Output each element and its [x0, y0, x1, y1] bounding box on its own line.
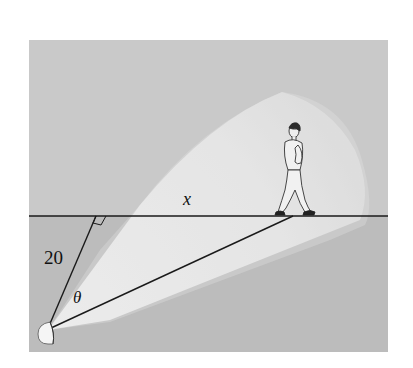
label-theta: θ [73, 288, 81, 308]
label-distance-20: 20 [44, 247, 63, 269]
diagram-figure: x 20 θ [0, 0, 413, 368]
diagram-canvas [0, 0, 413, 368]
label-x: x [183, 189, 191, 210]
